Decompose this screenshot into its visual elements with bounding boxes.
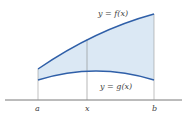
area-between-curves-diagram: y = f(x) y = g(x) a x b — [0, 0, 190, 120]
label-g: y = g(x) — [99, 82, 132, 91]
tick-label-x: x — [85, 104, 90, 113]
tick-label-a: a — [35, 104, 40, 113]
tick-label-b: b — [152, 104, 157, 113]
shaded-region — [38, 14, 154, 80]
label-f: y = f(x) — [97, 9, 128, 18]
